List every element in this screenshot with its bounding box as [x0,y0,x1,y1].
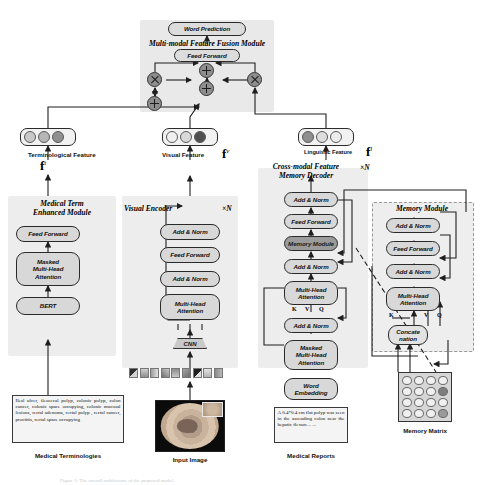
linguistic-feature-chip[interactable] [298,128,354,146]
feature-dot [194,131,206,143]
terminological-feature-chip[interactable] [20,128,76,146]
feature-dot [316,131,328,143]
mtm-masked-multi-head-attention-box[interactable]: Masked Multi-Head Attention [16,252,80,286]
decoder-title-line2: Memory Decoder [256,171,356,180]
fusion-multiply-right[interactable] [247,72,262,87]
medical-term-module-title-line1: Medical Term [8,199,116,208]
decoder-value-label: V [305,306,309,312]
memory-cell [426,398,436,407]
image-patch [129,368,138,378]
memory-cell [414,376,424,385]
cnn-block[interactable]: CNN [173,338,207,349]
dec-memory-module-box[interactable]: Memory Module [284,236,338,251]
mtm-bert-box[interactable]: BERT [16,297,80,315]
image-patch [203,368,212,378]
visual-encoder-title: Visual Encoder [124,204,172,213]
mm-multi-head-attention-box[interactable]: Multi-Head Attention [386,287,440,311]
memory-cell [414,409,424,418]
mm-add-norm-2-box[interactable]: Add & Norm [386,218,440,233]
dec-feed-forward-box[interactable]: Feed Forward [284,214,338,229]
memory-query-label: Q [437,312,442,318]
memory-cell [438,387,448,396]
image-patch [140,368,149,378]
ve-multi-head-attention-box[interactable]: Multi-Head Attention [160,294,220,320]
fusion-add-top[interactable] [199,63,214,78]
image-patch [171,368,180,378]
feature-dot [52,131,64,143]
fusion-add-bottom[interactable] [147,96,162,111]
word-prediction-box[interactable]: Word Prediction [168,22,246,36]
linguistic-feature-symbol: fl [366,144,372,160]
image-patch [161,368,170,378]
dec-add-norm-2-box[interactable]: Add & Norm [284,259,338,274]
fusion-module-title: Multi-modal Feature Fusion Module [130,39,284,48]
terminological-feature-label: Terminological Feature [28,151,96,158]
decoder-repeat: ×N [360,163,370,172]
feature-dot [180,131,192,143]
medical-reports-caption: Medical Reports [274,452,348,459]
decoder-query-label: Q [319,306,324,312]
memory-cell [414,387,424,396]
dec-add-norm-3-box[interactable]: Add & Norm [284,192,338,207]
ve-feed-forward-box[interactable]: Feed Forward [160,247,220,263]
medical-term-module-title-line2: Enhanced Module [8,208,116,217]
image-thumbnail-inset [202,402,223,417]
feature-dot [38,131,50,143]
image-patch-strip [129,368,223,378]
mm-feed-forward-box[interactable]: Feed Forward [386,241,440,256]
mm-add-norm-1-box[interactable]: Add & Norm [386,264,440,279]
memory-matrix[interactable] [398,372,452,422]
medical-terminologies-input[interactable]: Ileal ulcer, ileocecal polyp, colonic po… [12,395,124,443]
memory-key-label: K [389,312,394,318]
dec-word-embedding-box[interactable]: Word Embedding [284,378,338,400]
dec-masked-multi-head-attention-box[interactable]: Masked Multi-Head Attention [284,340,338,370]
memory-cell [438,398,448,407]
linguistic-feature-label: Linguistic Feature [304,149,352,155]
decoder-title-line1: Cross-modal Feature [256,162,356,171]
mtm-feed-forward-box[interactable]: Feed Forward [16,226,80,242]
memory-module-title: Memory Module [374,204,470,213]
visual-feature-symbol: fv [222,146,229,162]
image-patch [150,368,159,378]
feature-dot [24,131,36,143]
image-patch [214,368,223,378]
visual-encoder-repeat: ×N [222,204,232,213]
decoder-key-label: K [292,306,297,312]
memory-cell [402,376,412,385]
input-endoscopy-image [155,400,225,452]
memory-cell [426,387,436,396]
memory-cell [414,398,424,407]
terminological-feature-symbol: ft [40,158,46,174]
medical-terminologies-caption: Medical Terminologies [12,452,124,459]
memory-matrix-caption: Memory Matrix [398,427,452,434]
memory-cell [438,409,448,418]
image-patch [182,368,191,378]
memory-cell [402,387,412,396]
memory-cell [426,409,436,418]
figure-caption: Figure 1: The overall architecture of th… [60,478,174,483]
memory-cell [402,398,412,407]
ve-add-norm-2-box[interactable]: Add & Norm [160,224,220,240]
visual-feature-label: Visual Feature [162,151,204,158]
memory-cell [438,376,448,385]
dec-multi-head-attention-box[interactable]: Multi-Head Attention [284,281,338,305]
memory-cell [402,409,412,418]
fusion-feed-forward-box[interactable]: Feed Forward [174,49,240,62]
fusion-add-middle[interactable] [199,81,214,96]
feature-dot [330,131,342,143]
feature-dot [302,131,314,143]
input-image-caption: Input Image [155,456,225,463]
figure-canvas: Word Prediction Multi-modal Feature Fusi… [0,0,480,485]
memory-value-label: V [424,312,428,318]
ve-add-norm-1-box[interactable]: Add & Norm [160,271,220,287]
visual-feature-chip[interactable] [162,128,218,146]
fusion-multiply-left[interactable] [147,72,162,87]
feature-dot [166,131,178,143]
image-patch [193,368,202,378]
memory-cell [426,376,436,385]
dec-add-norm-1-box[interactable]: Add & Norm [284,318,338,333]
medical-reports-input[interactable]: A 0.4*0.4 cm flat polyp was seen in the … [274,407,348,443]
mm-concatenation-box[interactable]: Concate nation [388,325,428,345]
